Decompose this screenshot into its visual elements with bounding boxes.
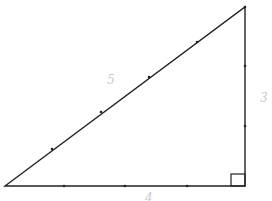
triangle — [5, 7, 245, 186]
tick-marks-hypotenuse — [51, 41, 199, 151]
vertex-top-right — [244, 6, 247, 9]
label-hypotenuse: 5 — [107, 74, 115, 86]
label-vertical-leg: 3 — [260, 92, 268, 104]
label-horizontal-leg: 4 — [145, 192, 153, 201]
triangle-diagram — [0, 0, 272, 201]
right-angle-marker — [231, 174, 245, 186]
